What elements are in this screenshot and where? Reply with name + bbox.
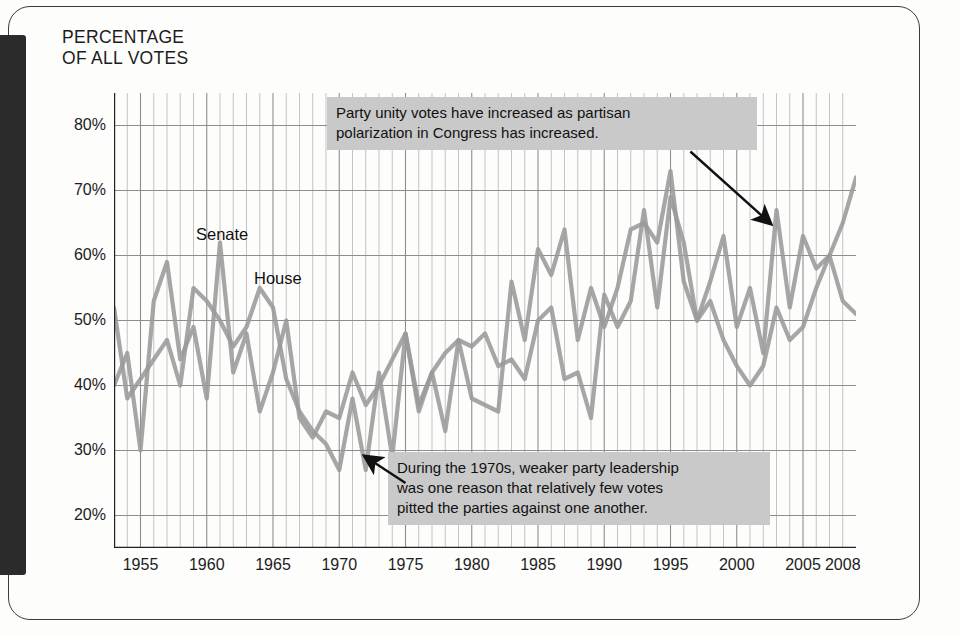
- y-tick-label: 50%: [74, 311, 106, 329]
- x-tick-label: 2000: [719, 556, 755, 574]
- y-tick-label: 30%: [74, 441, 106, 459]
- x-tick-label: 1955: [123, 556, 159, 574]
- x-tick-label: 1995: [653, 556, 689, 574]
- x-tick-label: 1980: [454, 556, 490, 574]
- y-axis-tick-labels: 20%30%40%50%60%70%80%: [46, 93, 106, 548]
- x-tick-label: 1970: [321, 556, 357, 574]
- x-tick-label: 2008: [825, 556, 861, 574]
- y-tick-label: 20%: [74, 506, 106, 524]
- annotation-callout-bottom: During the 1970s, weaker party leadershi…: [388, 452, 770, 525]
- series-label-senate: Senate: [196, 225, 248, 244]
- series-label-house: House: [254, 269, 302, 288]
- x-tick-label: 2005: [785, 556, 821, 574]
- x-axis-tick-labels: 1955196019651970197519801985199019952000…: [114, 556, 874, 580]
- y-axis-title: PERCENTAGE OF ALL VOTES: [62, 27, 188, 69]
- page-binding-bar: [0, 35, 26, 575]
- x-tick-label: 1960: [189, 556, 225, 574]
- annotation-callout-top: Party unity votes have increased as part…: [327, 97, 757, 150]
- y-tick-label: 70%: [74, 181, 106, 199]
- y-tick-label: 60%: [74, 246, 106, 264]
- page-canvas: PERCENTAGE OF ALL VOTES 20%30%40%50%60%7…: [0, 0, 960, 637]
- x-tick-label: 1985: [520, 556, 556, 574]
- x-tick-label: 1990: [586, 556, 622, 574]
- x-tick-label: 1965: [255, 556, 291, 574]
- y-tick-label: 40%: [74, 376, 106, 394]
- y-tick-label: 80%: [74, 116, 106, 134]
- x-tick-label: 1975: [388, 556, 424, 574]
